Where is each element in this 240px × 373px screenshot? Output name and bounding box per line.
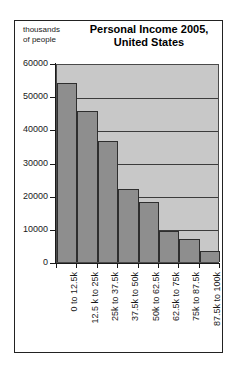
x-axis-tick [178,264,179,268]
x-axis-tick-label: 37.5k to 50k [131,272,140,321]
bar [57,83,77,262]
bar [179,239,199,262]
y-axis-tick [50,64,55,65]
y-axis-tick-label: 30000 [4,159,48,168]
y-axis-tick-label: 0 [4,258,48,267]
gridline [57,98,218,99]
bar [200,251,220,262]
x-axis-tick [117,264,118,268]
x-axis-tick [199,264,200,268]
y-axis-tick-label: 60000 [4,59,48,68]
x-axis-tick [97,264,98,268]
x-axis-tick-label: 87.5k to 100k [213,272,222,326]
x-axis-tick-label: 12.5 k to 25k [91,272,100,324]
x-axis-tick [138,264,139,268]
y-axis-tick [50,164,55,165]
x-axis-tick [219,264,220,268]
bar [98,141,118,262]
y-axis-tick [50,197,55,198]
x-axis-tick-label: 25k to 37.5k [111,272,120,321]
bar [159,231,179,263]
bar [139,202,159,262]
x-axis-tick-label: 0 to 12.5k [70,272,79,312]
bar [118,189,138,262]
x-axis-tick-label: 62.5k to 75k [172,272,181,321]
chart-title: Personal Income 2005, United States [78,23,220,49]
plot-area [56,64,219,263]
x-axis-tick [56,264,57,268]
y-axis-tick-label: 40000 [4,125,48,134]
x-axis-tick-label: 75k to 87.5k [192,272,201,321]
chart-title-line-2: United States [78,36,220,49]
y-axis-tick-label: 50000 [4,92,48,101]
chart-page: thousands of people Personal Income 2005… [0,0,240,373]
y-axis-tick [50,263,55,264]
y-axis-tick-labels: 0100002000030000400005000060000 [0,0,48,373]
y-axis-tick-label: 10000 [4,225,48,234]
x-axis-tick [76,264,77,268]
y-axis-tick [50,97,55,98]
y-axis-tick-label: 20000 [4,192,48,201]
chart-title-line-1: Personal Income 2005, [78,23,220,36]
x-axis-tick [158,264,159,268]
x-axis-tick-label: 50k to 62.5k [152,272,161,321]
y-axis-tick [50,230,55,231]
bar [77,111,97,262]
y-axis-tick [50,130,55,131]
y-axis-line [55,63,56,264]
